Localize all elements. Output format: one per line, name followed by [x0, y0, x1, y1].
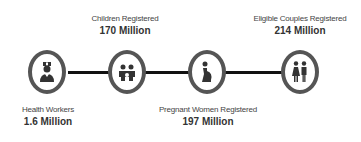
children-node [108, 50, 146, 94]
stat-value: 170 Million [55, 25, 195, 36]
stat-title: Health Workers [0, 105, 118, 114]
children-icon [117, 60, 137, 84]
stat-title: Children Registered [55, 14, 195, 23]
connector-line [68, 71, 287, 74]
stat-value: 197 Million [138, 116, 278, 127]
pregnant-women-label: Pregnant Women Registered 197 Million [138, 105, 278, 127]
stat-value: 1.6 Million [0, 116, 118, 127]
couple-icon [290, 60, 310, 84]
stat-title: Eligible Couples Registered [230, 14, 361, 23]
stat-value: 214 Million [230, 25, 361, 36]
eligible-couples-label: Eligible Couples Registered 214 Million [230, 14, 361, 36]
pregnant-woman-icon [197, 60, 217, 84]
stat-title: Pregnant Women Registered [138, 105, 278, 114]
nurse-icon [37, 60, 57, 84]
eligible-couples-node [281, 50, 319, 94]
health-workers-label: Health Workers 1.6 Million [0, 105, 118, 127]
health-workers-node [28, 50, 66, 94]
pregnant-women-node [188, 50, 226, 94]
children-label: Children Registered 170 Million [55, 14, 195, 36]
